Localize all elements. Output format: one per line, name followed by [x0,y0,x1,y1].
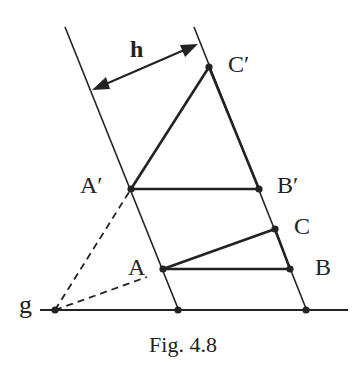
point-B [286,265,293,272]
point-left-foot [174,306,181,313]
label-A-prime: A′ [80,172,103,198]
dashed-line-g-to-A [55,277,147,310]
point-right-foot [302,306,309,313]
point-g [51,306,58,313]
point-A-prime [127,185,134,192]
dashed-line-g-to-A-prime [55,189,131,310]
label-g: g [19,290,32,319]
point-C [271,225,278,232]
label-A: A [128,254,146,280]
point-B-prime [255,185,262,192]
point-A [159,265,166,272]
label-B: B [315,254,331,280]
geometry-figure: h C′ A′ B′ C A B g Fig. 4.8 [0,0,364,373]
arrowhead-right-icon [180,44,198,57]
arrowhead-left-icon [92,77,110,90]
point-C-prime [205,63,212,70]
label-h: h [130,36,143,62]
label-C-prime: C′ [228,51,249,77]
label-C: C [294,213,310,239]
triangle-ABC [163,229,290,269]
label-B-prime: B′ [277,172,298,198]
figure-caption: Fig. 4.8 [149,332,217,357]
triangle-A-prime-B-prime-C-prime [131,67,259,189]
distance-arrow-h [92,44,198,90]
